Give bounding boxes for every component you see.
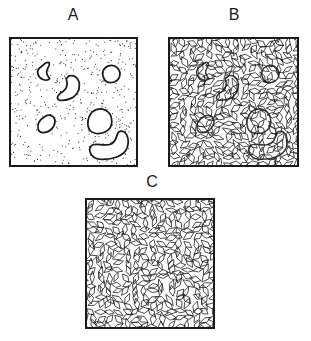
- mosaic-pattern: [87, 200, 213, 327]
- mosaic-pattern-with-blobs: [170, 39, 297, 165]
- panel-a: [9, 37, 138, 167]
- panel-b: [168, 37, 299, 167]
- panel-label-c: C: [137, 173, 167, 191]
- panel-label-a: A: [58, 6, 88, 24]
- panel-label-b: B: [219, 6, 249, 24]
- panel-c: [85, 198, 215, 329]
- stipple-pattern-with-blobs: [11, 39, 136, 165]
